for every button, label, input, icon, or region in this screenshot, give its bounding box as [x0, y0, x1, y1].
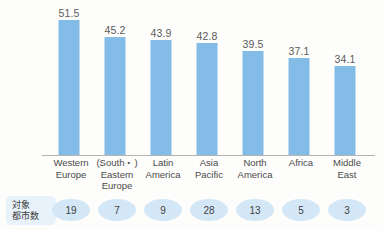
category-label: Africa [278, 157, 324, 169]
category-label-line: North [232, 157, 278, 169]
bar[interactable] [335, 66, 356, 155]
category-label-line: Middle [324, 157, 370, 169]
category-label: WesternEurope [48, 157, 94, 180]
category-label-line: Europe [48, 169, 94, 181]
category-label: LatinAmerica [140, 157, 186, 180]
category-label: NorthAmerica [232, 157, 278, 180]
count-pill: 13 [236, 199, 274, 221]
bar-slot: 51.5 [48, 8, 90, 155]
category-label-line: America [232, 169, 278, 181]
category-label-line: Pacific [186, 169, 232, 181]
category-label-line: (South・) [94, 157, 140, 169]
count-pill: 28 [190, 199, 228, 221]
category-label-line: Western [48, 157, 94, 169]
bar-value-label: 39.5 [242, 38, 263, 50]
chart-plot-area: 51.545.243.942.839.537.134.1 [48, 8, 378, 155]
bar-slot: 39.5 [232, 8, 274, 155]
counts-row-label: 対象 都市数 [6, 196, 56, 225]
bar[interactable] [105, 37, 126, 155]
bar-slot: 37.1 [278, 8, 320, 155]
bar-value-label: 34.1 [334, 53, 355, 65]
x-axis-baseline [42, 155, 375, 156]
bar-slot: 43.9 [140, 8, 182, 155]
category-label-line: Eastern [94, 169, 140, 181]
category-label-line: Latin [140, 157, 186, 169]
bar[interactable] [197, 43, 218, 155]
category-label: (South・)EasternEurope [94, 157, 140, 192]
category-label-row: WesternEurope(South・)EasternEuropeLatinA… [48, 157, 378, 195]
bar-slot: 45.2 [94, 8, 136, 155]
count-pill: 7 [98, 199, 136, 221]
bar-slot: 34.1 [324, 8, 366, 155]
count-pill: 19 [52, 199, 90, 221]
category-label-line: Europe [94, 180, 140, 192]
count-pill: 5 [282, 199, 320, 221]
bar-value-label: 37.1 [288, 45, 309, 57]
count-pill: 9 [144, 199, 182, 221]
bar[interactable] [151, 40, 172, 155]
counts-label-line-2: 都市数 [12, 211, 39, 222]
category-label-line: America [140, 169, 186, 181]
bar[interactable] [289, 58, 310, 155]
bar-value-label: 42.8 [196, 30, 217, 42]
bar-slot: 42.8 [186, 8, 228, 155]
bar-value-label: 45.2 [104, 24, 125, 36]
bar[interactable] [59, 20, 80, 155]
bar-value-label: 43.9 [150, 27, 171, 39]
bar-chart-figure: 51.545.243.942.839.537.134.1 WesternEuro… [0, 0, 383, 230]
category-label: AsiaPacific [186, 157, 232, 180]
bar[interactable] [243, 51, 264, 155]
target-city-counts-row: 対象 都市数 1979281353 [0, 196, 383, 226]
category-label: MiddleEast [324, 157, 370, 180]
bar-value-label: 51.5 [58, 7, 79, 19]
category-label-line: Africa [278, 157, 324, 169]
category-label-line: East [324, 169, 370, 181]
category-label-line: Asia [186, 157, 232, 169]
count-pill: 3 [328, 199, 366, 221]
counts-label-line-1: 対象 [12, 200, 30, 211]
